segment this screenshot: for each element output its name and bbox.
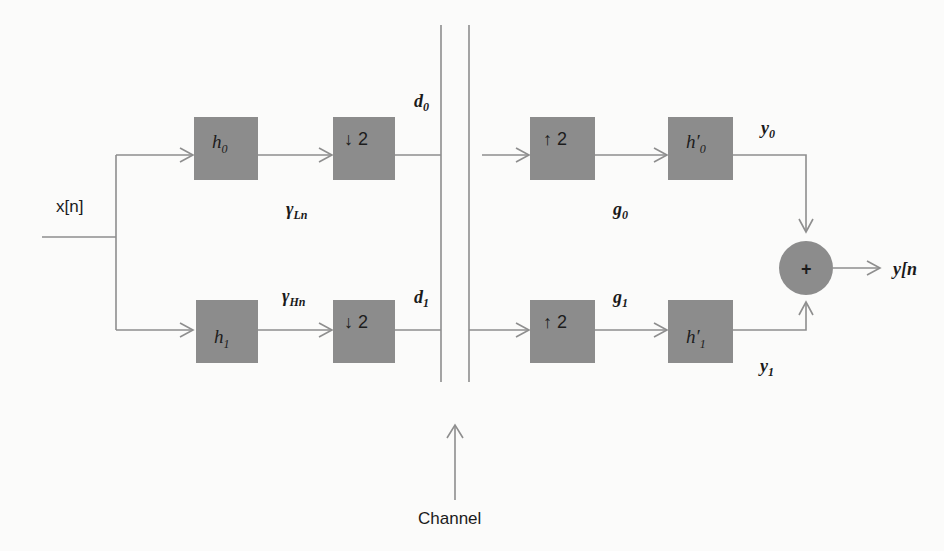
signal-g0-label: g0 <box>612 199 628 222</box>
signal-y0-label: y0 <box>759 118 775 141</box>
signal-d0-label: d0 <box>414 91 429 114</box>
summation-plus-label: + <box>801 259 812 279</box>
block-downsample-0-label: ↓ 2 <box>344 129 368 149</box>
block-upsample-1-label: ↑ 2 <box>543 312 567 332</box>
block-downsample-1-label: ↓ 2 <box>344 312 368 332</box>
input-signal-label: x[n] <box>56 197 83 216</box>
channel-label: Channel <box>418 509 481 528</box>
diagram-canvas: h0 ↓ 2 h1 ↓ 2 ↑ 2 h′0 ↑ 2 h′1 + x[n] γLn <box>0 0 944 551</box>
block-h1[interactable] <box>196 300 258 363</box>
block-hprime-1[interactable] <box>668 300 733 363</box>
wire-hp1-to-adder <box>733 302 806 330</box>
signal-g1-label: g1 <box>612 287 628 310</box>
signal-gamma-hn-label: γHn <box>282 286 306 309</box>
output-signal-label: y[n <box>891 259 917 279</box>
block-upsample-0-label: ↑ 2 <box>543 129 567 149</box>
filter-bank-diagram: h0 ↓ 2 h1 ↓ 2 ↑ 2 h′0 ↑ 2 h′1 + x[n] γLn <box>0 0 944 551</box>
signal-d1-label: d1 <box>414 287 429 310</box>
signal-gamma-ln-label: γLn <box>286 199 308 222</box>
wire-hp0-to-adder <box>733 155 806 232</box>
signal-y1-label: y1 <box>758 356 774 379</box>
